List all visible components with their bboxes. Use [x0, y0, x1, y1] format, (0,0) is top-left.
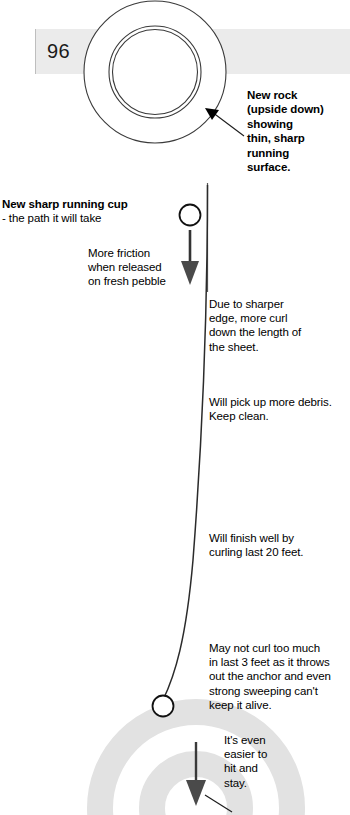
rock-running-band-inner: [113, 30, 198, 115]
annotation-new-rock: New rock (upside down) showing thin, sha…: [247, 88, 347, 174]
annotation-last-three-feet: May not curl too much in last 3 feet as …: [209, 641, 350, 712]
leader-line-to-running-surface: [205, 108, 244, 136]
annotation-sharper-edge: Due to sharper edge, more curl down the …: [209, 297, 344, 354]
annotation-easier-to-hit: It's even easier to hit and stay.: [224, 733, 304, 790]
annotation-cup-title: New sharp running cup: [2, 197, 192, 211]
diagram-page: 96 New rock (upside down) showing thin, …: [0, 0, 350, 815]
folio-page-number: 96: [47, 40, 70, 63]
annotation-more-friction: More friction when released on fresh peb…: [88, 246, 208, 289]
curling-rock-top-view: [84, 1, 226, 143]
stone-at-finish: [153, 696, 174, 717]
annotation-cup-subtitle: - the path it will take: [2, 211, 192, 225]
folio-band-left-rule: [35, 29, 36, 74]
annotation-more-debris: Will pick up more debris. Keep clean.: [209, 395, 349, 423]
annotation-finish-well: Will finish well by curling last 20 feet…: [209, 531, 349, 559]
